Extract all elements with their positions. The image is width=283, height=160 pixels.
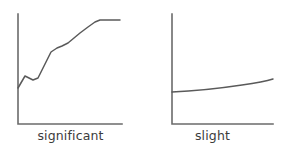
significant-axes — [18, 14, 122, 124]
slight-trend-line — [172, 79, 273, 92]
panel-significant: significant — [0, 0, 141, 160]
panel-slight: slight — [142, 0, 283, 160]
caption-slight: slight — [142, 128, 283, 144]
slight-chart-plot — [142, 0, 283, 132]
significant-trend-line — [18, 20, 120, 88]
two-panel-trend-figure: significant slight — [0, 0, 283, 160]
caption-significant: significant — [0, 128, 141, 144]
slight-axes — [172, 14, 273, 124]
significant-chart-plot — [0, 0, 141, 132]
